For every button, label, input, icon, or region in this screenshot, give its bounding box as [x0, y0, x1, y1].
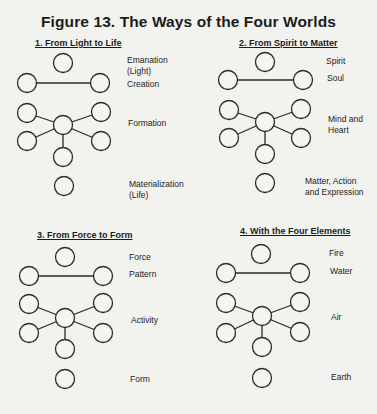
- panel-1-spoke-node-5: [54, 148, 73, 167]
- panel-4-spoke-node-1: [217, 294, 236, 313]
- panel-1-center-node: [54, 116, 73, 135]
- panel-1-spoke-node-2: [92, 103, 111, 122]
- panel-4-pair-node-right: [291, 264, 310, 283]
- panel-4-bottom-node: [253, 369, 272, 388]
- panel-4-center-node: [253, 307, 272, 326]
- panel-4-spoke-node-4: [291, 323, 310, 342]
- panel-2-spoke-node-2: [292, 100, 311, 119]
- panel-3-pair-node-left: [20, 267, 39, 286]
- panel-1-pair-node-right: [91, 74, 110, 93]
- panel-4-top-node: [252, 245, 271, 264]
- panel-2-center-node: [256, 113, 275, 132]
- panel-4-spoke-node-2: [291, 293, 310, 312]
- panel-2-spoke-node-1: [220, 101, 239, 120]
- panel-3-spoke-node-4: [94, 324, 113, 343]
- panel-1-spoke-node-3: [18, 132, 37, 151]
- panel-4-spoke-node-5: [253, 338, 272, 357]
- panel-2-bottom-node: [256, 174, 275, 193]
- panel-2-spoke-node-4: [292, 129, 311, 148]
- panel-3-top-node: [56, 248, 75, 267]
- panel-3-spoke-node-5: [56, 340, 75, 359]
- panel-1-spoke-node-4: [92, 132, 111, 151]
- panel-1-spoke-node-1: [18, 104, 37, 123]
- panel-4-pair-node-left: [217, 264, 236, 283]
- panel-4-spoke-node-3: [217, 324, 236, 343]
- panel-2-pair-node-right: [294, 71, 313, 90]
- panel-3-spoke-node-2: [94, 294, 113, 313]
- panel-1-bottom-node: [55, 177, 74, 196]
- panel-1-top-node: [54, 54, 73, 73]
- four-worlds-diagram: [0, 0, 377, 414]
- panel-3-spoke-node-1: [20, 295, 39, 314]
- panel-2-top-node: [256, 53, 275, 72]
- panel-2-spoke-node-3: [220, 129, 239, 148]
- panel-1-pair-node-left: [18, 74, 37, 93]
- panel-3-center-node: [56, 309, 75, 328]
- panel-3-bottom-node: [56, 370, 75, 389]
- panel-3-pair-node-right: [94, 267, 113, 286]
- panel-2-pair-node-left: [219, 71, 238, 90]
- panel-3-spoke-node-3: [20, 324, 39, 343]
- panel-2-spoke-node-5: [256, 145, 275, 164]
